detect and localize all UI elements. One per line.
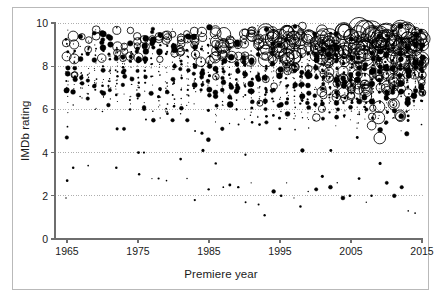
x-tick-label: 2015 xyxy=(410,245,433,257)
y-axis-title: IMDb rating xyxy=(19,100,31,161)
y-tick-label: 4 xyxy=(42,147,48,159)
figure-container: 0246810 196519751985199520052015 IMDb ra… xyxy=(0,0,442,300)
tick-marks xyxy=(51,23,422,243)
data-points xyxy=(62,17,430,239)
y-tick-label: 0 xyxy=(42,233,48,245)
x-tick-label: 1975 xyxy=(126,245,149,257)
x-tick-label: 2005 xyxy=(339,245,362,257)
x-tick-label: 1965 xyxy=(55,245,78,257)
y-tick-label: 8 xyxy=(42,60,48,72)
y-tick-label: 10 xyxy=(36,17,48,29)
y-tick-label: 6 xyxy=(42,103,48,115)
x-axis-title: Premiere year xyxy=(184,268,258,280)
y-tick-label: 2 xyxy=(42,190,48,202)
x-tick-label: 1995 xyxy=(268,245,291,257)
x-tick-label: 1985 xyxy=(197,245,220,257)
